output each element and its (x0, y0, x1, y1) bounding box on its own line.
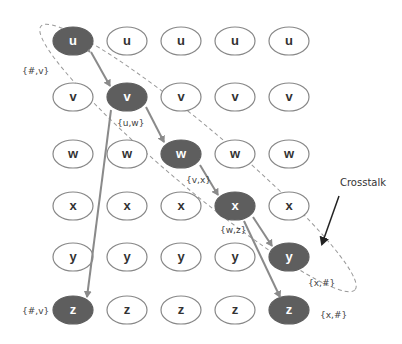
node-label: z (124, 302, 131, 317)
node-v-4: v (215, 83, 255, 111)
node-v-3: v (161, 83, 201, 111)
node-y-4: y (215, 243, 255, 271)
node-label: u (123, 33, 131, 48)
node-z-1: z (53, 296, 93, 324)
node-label: v (177, 89, 185, 104)
node-label: x (285, 198, 293, 213)
node-label: v (69, 89, 77, 104)
node-y-1: y (53, 243, 93, 271)
node-label: x (177, 198, 185, 213)
node-label: z (232, 302, 239, 317)
node-x-3: x (161, 192, 201, 220)
node-label: w (283, 146, 295, 161)
crosstalk-arrow (322, 196, 339, 244)
node-u-1: u (53, 27, 93, 55)
node-label: u (231, 33, 239, 48)
node-label: w (229, 146, 241, 161)
neighbor-annotation: {#,v} (22, 306, 49, 316)
node-label: x (231, 198, 239, 213)
node-u-4: u (215, 27, 255, 55)
node-label: x (69, 198, 77, 213)
node-w-5: w (269, 140, 309, 168)
node-x-5: x (269, 192, 309, 220)
node-v-1: v (53, 83, 93, 111)
node-x-1: x (53, 192, 93, 220)
node-y-3: y (161, 243, 201, 271)
neighbor-annotation: {w,z} (220, 225, 246, 235)
crosstalk-diagram: uuuuuvvvvvwwwwwxxxxxyyyyyzzzzz {#,v}{u,w… (0, 0, 402, 344)
node-label: v (285, 89, 293, 104)
node-label: y (123, 249, 131, 264)
node-u-2: u (107, 27, 147, 55)
node-w-2: w (107, 140, 147, 168)
neighbor-annotation: {u,w} (117, 118, 144, 128)
node-y-5: y (269, 243, 309, 271)
neighbor-annotation: {x,#} (320, 310, 347, 320)
node-label: z (286, 302, 293, 317)
node-label: u (285, 33, 293, 48)
node-label: w (121, 146, 133, 161)
neighbor-annotation: {v,x} (186, 175, 211, 185)
neighbor-annotation: {#,v} (22, 66, 49, 76)
node-z-3: z (161, 296, 201, 324)
node-w-4: w (215, 140, 255, 168)
node-y-2: y (107, 243, 147, 271)
node-v-5: v (269, 83, 309, 111)
node-z-4: z (215, 296, 255, 324)
node-label: z (70, 302, 77, 317)
node-label: w (67, 146, 79, 161)
node-w-3: w (161, 140, 201, 168)
node-label: z (178, 302, 185, 317)
neighbor-annotation: {x,#} (308, 278, 335, 288)
node-w-1: w (53, 140, 93, 168)
node-z-2: z (107, 296, 147, 324)
node-v-2: v (107, 83, 147, 111)
node-label: y (69, 249, 77, 264)
node-label: u (69, 33, 77, 48)
node-label: y (177, 249, 185, 264)
node-x-4: x (215, 192, 255, 220)
node-label: v (231, 89, 239, 104)
node-label: v (123, 89, 131, 104)
node-u-5: u (269, 27, 309, 55)
node-label: y (231, 249, 239, 264)
node-label: w (175, 146, 187, 161)
node-z-5: z (269, 296, 309, 324)
node-label: x (123, 198, 131, 213)
node-u-3: u (161, 27, 201, 55)
node-label: u (177, 33, 185, 48)
node-label: y (285, 249, 293, 264)
crosstalk-label: Crosstalk (340, 177, 386, 188)
node-x-2: x (107, 192, 147, 220)
